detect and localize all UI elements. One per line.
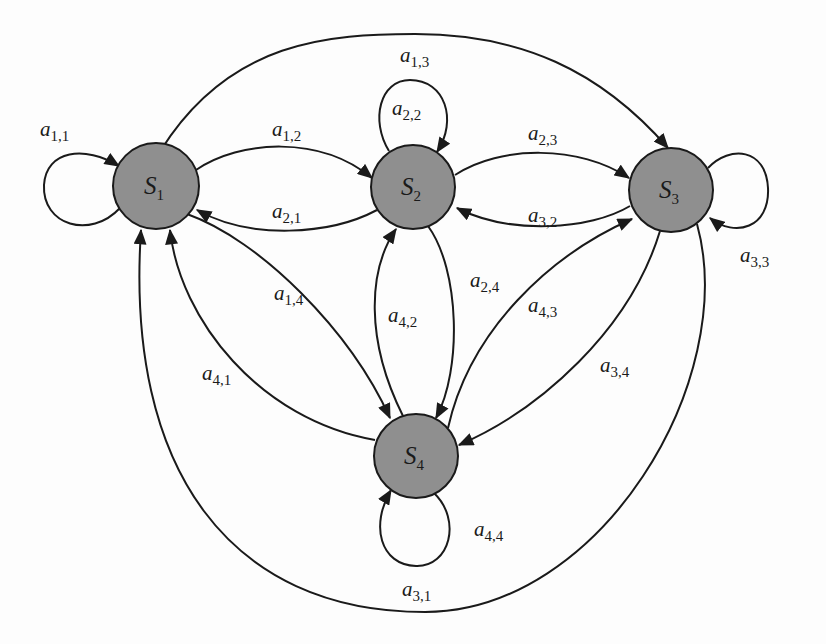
edge-a24 [428, 226, 454, 418]
label-a14: a1,4 [274, 281, 304, 308]
edge-a44 [380, 490, 449, 566]
node-s4: S4 [374, 414, 458, 498]
label-a21: a2,1 [272, 199, 301, 226]
label-a22: a2,2 [392, 96, 421, 123]
label-a32: a3,2 [528, 203, 557, 230]
edge-a11 [44, 154, 120, 226]
label-a41: a4,1 [202, 361, 231, 388]
label-a34: a3,4 [600, 353, 630, 380]
label-a43: a4,3 [528, 293, 557, 320]
edge-a23 [455, 153, 629, 178]
edge-labels: a1,1 a1,2 a1,3 a2,1 a2,2 a2,3 a3,2 a3,3 … [40, 43, 769, 604]
label-a12: a1,2 [272, 117, 301, 144]
label-a24: a2,4 [470, 268, 500, 295]
node-s2: S2 [371, 145, 455, 229]
edge-a12 [196, 147, 372, 178]
label-a13: a1,3 [400, 43, 429, 70]
edge-a41 [170, 230, 375, 440]
state-diagram: S1 S2 S3 S4 [0, 0, 826, 644]
edge-a13 [161, 34, 668, 150]
label-a33: a3,3 [740, 243, 769, 270]
label-a31: a3,1 [402, 577, 431, 604]
node-s3: S3 [629, 148, 713, 232]
edge-a33 [708, 154, 768, 228]
node-s1: S1 [113, 143, 199, 229]
label-a44: a4,4 [474, 517, 504, 544]
label-a11: a1,1 [40, 117, 69, 144]
label-a42: a4,2 [388, 303, 417, 330]
diagram-svg: S1 S2 S3 S4 [0, 0, 826, 644]
label-a23: a2,3 [528, 121, 557, 148]
